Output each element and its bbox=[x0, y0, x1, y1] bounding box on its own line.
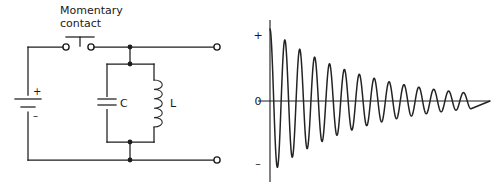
figure-lc-circuit-and-waveform: Momentary contact + – bbox=[0, 0, 502, 196]
switch-terminal-right-icon bbox=[88, 44, 94, 50]
output-terminal-top-icon bbox=[214, 44, 220, 50]
inductor-coil bbox=[154, 80, 162, 127]
waveform-ytick-zero: 0 bbox=[255, 95, 262, 108]
switch-label-line2: contact bbox=[60, 17, 102, 30]
switch-label-line1: Momentary bbox=[60, 4, 123, 17]
inductor-label: L bbox=[170, 97, 177, 110]
inductor: L bbox=[154, 80, 177, 127]
output-terminal-bottom-icon bbox=[214, 157, 220, 163]
capacitor-label: C bbox=[120, 97, 128, 110]
junction-dot-top bbox=[128, 45, 133, 50]
capacitor: C bbox=[98, 97, 128, 110]
waveform-ytick-plus: + bbox=[253, 29, 262, 42]
battery-minus-label: – bbox=[33, 110, 38, 121]
junction-dot-tank-top bbox=[128, 62, 133, 67]
switch-terminal-left-icon bbox=[63, 44, 69, 50]
junction-dot-bottom bbox=[128, 158, 133, 163]
circuit-diagram: Momentary contact + – bbox=[15, 4, 220, 163]
figure-canvas: Momentary contact + – bbox=[0, 0, 502, 196]
waveform-ytick-minus: – bbox=[255, 157, 261, 170]
battery-plus-label: + bbox=[33, 86, 41, 97]
junction-dot-tank-bottom bbox=[128, 140, 133, 145]
waveform-damped-oscillation-trace bbox=[270, 29, 490, 167]
waveform-plot: + 0 – bbox=[253, 20, 490, 182]
momentary-switch[interactable] bbox=[63, 37, 94, 50]
